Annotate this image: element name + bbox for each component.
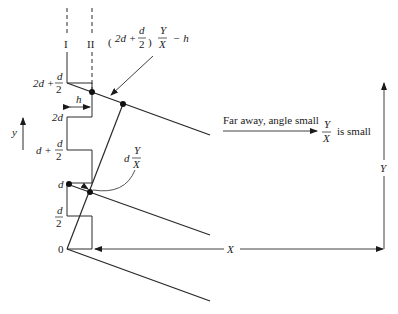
column-I-label: I — [64, 38, 68, 50]
stepped-profile — [67, 83, 92, 249]
point-top-left — [89, 89, 95, 95]
x-distance-label: X — [226, 243, 235, 255]
far-away-text: Far away, angle small — [223, 114, 319, 126]
annot-top-expr: 2d + — [115, 32, 136, 44]
annot-mid-ratio-den: X — [132, 158, 141, 170]
perpendicular-line — [67, 104, 123, 249]
annot-top-close-paren: ) — [148, 36, 152, 49]
annot-top-frac-den: 2 — [139, 38, 145, 50]
annot-top-open-paren: ( — [108, 36, 112, 49]
annot-top-ratio-num: Y — [160, 24, 168, 36]
label-2d-plus-half-den: 2 — [56, 83, 62, 95]
point-d — [66, 181, 72, 187]
bottom-ray — [67, 249, 210, 301]
far-away-ratio-num: Y — [324, 118, 332, 130]
annot-top-ratio-den: X — [158, 38, 167, 50]
label-2d: 2d — [52, 111, 64, 123]
label-d-plus-half-num: d — [57, 137, 63, 149]
annot-mid-prefix: d — [124, 152, 130, 164]
h-label: h — [76, 93, 82, 105]
far-away-ratio-den: X — [322, 132, 331, 144]
label-zero: 0 — [58, 243, 64, 255]
label-half-d-den: 2 — [56, 217, 62, 229]
point-mid — [87, 189, 93, 195]
annot-top-frac-num: d — [139, 24, 145, 36]
label-d: d — [58, 178, 64, 190]
label-d-plus-half-main: d + — [36, 144, 52, 156]
label-d-plus-half-den: 2 — [56, 150, 62, 162]
annot-top-suffix: − h — [173, 32, 189, 44]
label-2d-plus-half-num: d — [57, 70, 63, 82]
label-half-d-num: d — [57, 204, 63, 216]
label-2d-plus-half-main: 2d + — [33, 77, 54, 89]
diffraction-diagram: I II h 2d + d 2 2d d + d 2 d d 2 0 y ( 2… — [0, 0, 398, 314]
far-away-suffix: is small — [337, 125, 371, 137]
annot-top-pointer — [111, 56, 153, 95]
annot-mid-curve — [93, 170, 135, 191]
y-distance-label: Y — [380, 162, 388, 174]
top-ray — [67, 83, 210, 135]
column-II-label: II — [87, 38, 95, 50]
point-top-right — [120, 101, 126, 107]
small-d-arrow — [82, 185, 88, 189]
y-axis-label: y — [11, 126, 17, 138]
annot-mid-ratio-num: Y — [134, 144, 142, 156]
